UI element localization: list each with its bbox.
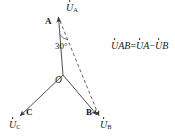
phasor-dot-icon <box>114 38 116 40</box>
phasor-dot-icon <box>139 38 141 40</box>
construction-line-uab <box>60 21 99 116</box>
equation-term2-subscript: B <box>162 40 168 51</box>
phasor-dot-icon <box>69 0 71 2</box>
angle-arc-30 <box>60 35 68 40</box>
node-label-o: O <box>55 76 62 86</box>
phasor-symbol-ua: U <box>66 2 73 13</box>
overdot-symbol-ub: U <box>100 120 107 130</box>
overdot-symbol-term1: U <box>136 41 143 51</box>
phasor-label-ua: UA <box>66 3 78 14</box>
equation-uab: UAB=UA−UB <box>111 41 168 51</box>
phasor-symbol-uc: U <box>9 119 16 130</box>
phasor-subscript-uc: C <box>16 123 20 130</box>
node-label-c: C <box>26 108 33 117</box>
equation-term1-symbol: U <box>136 40 143 51</box>
equation-lhs-subscript: AB <box>118 40 130 51</box>
overdot-symbol-term2: U <box>155 41 162 51</box>
phasor-symbol-ub: U <box>100 119 107 130</box>
node-label-a: A <box>45 17 52 26</box>
overdot-symbol-uc: U <box>9 120 16 130</box>
angle-label-30deg: 30° <box>55 42 68 51</box>
node-label-b: B <box>86 108 92 117</box>
phasor-label-ub: UB <box>100 120 112 131</box>
overdot-symbol-uab: U <box>111 41 118 51</box>
phasor-dot-icon <box>158 38 160 40</box>
equation-lhs-symbol: U <box>111 40 118 51</box>
phasor-subscript-ua: A <box>73 6 78 13</box>
phasor-label-uc: UC <box>9 120 21 131</box>
overdot-symbol-ua: U <box>66 3 73 13</box>
phasor-subscript-ub: B <box>107 123 111 130</box>
phasor-diagram-figure: A B C O UA UB UC 30° UAB=UA−UB <box>0 0 175 137</box>
phasor-dot-icon <box>103 117 105 119</box>
phasor-dot-icon <box>12 117 14 119</box>
equation-term2-symbol: U <box>155 40 162 51</box>
